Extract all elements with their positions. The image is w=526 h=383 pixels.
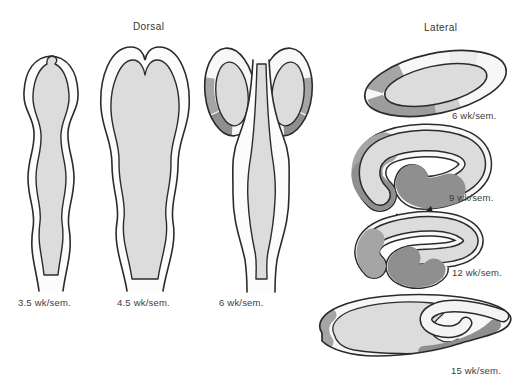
dorsal-stage-1-label: 3.5 wk/sem. [18, 297, 71, 308]
dorsal-column-title: Dorsal [133, 21, 164, 32]
lateral-stage-4-label: 15 wk/sem. [451, 365, 501, 376]
dorsal-stage-2-label: 4.5 wk/sem. [117, 297, 170, 308]
dorsal-stage-3-5wk-figure [24, 56, 78, 291]
lateral-stage-2-label: 9 wk/sem. [449, 192, 494, 203]
frontal-medium-gray-band [368, 240, 374, 266]
dorsal-stage-4-5wk-figure [101, 47, 189, 291]
embryo-brain-development-diagram: Dorsal Lateral 3.5 wk/sem. 4.5 wk/sem. 6… [0, 0, 526, 383]
lateral-stage-3-label: 12 wk/sem. [452, 267, 502, 278]
dorsal-stage-3-label: 6 wk/sem. [219, 297, 264, 308]
lateral-stage-15wk-figure [320, 295, 511, 357]
diagram-artwork [0, 0, 526, 383]
lateral-stage-1-label: 6 wk/sem. [452, 110, 497, 121]
frontal-medium-gray-band [323, 315, 330, 342]
temporal-dark-gray-band [399, 258, 434, 276]
curl-dark-gray-band [411, 180, 450, 193]
dorsal-stage-6wk-figure [201, 46, 317, 292]
lateral-column-title: Lateral [424, 22, 457, 33]
lateral-stage-9wk-figure [367, 140, 475, 195]
